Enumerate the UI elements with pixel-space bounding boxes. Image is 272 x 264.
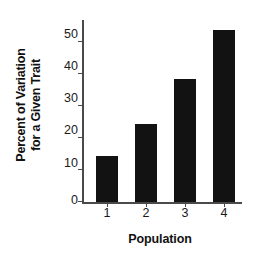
y-axis-tick-20 [78,137,82,138]
plot-area [82,20,242,202]
x-tick-label-1: 1 [92,206,122,220]
y-axis-title-line-2: for a Given Trait [29,48,44,161]
y-axis-tick-0 [78,201,82,202]
bar-population-2 [135,124,157,202]
bar-chart-figure: Percent of Variation for a Given Trait 0… [0,0,272,264]
y-axis-title-line-1: Percent of Variation [14,48,29,161]
x-axis-line [82,202,242,204]
y-tick-label-50: 50 [54,28,78,40]
x-axis-title: Population [60,232,260,246]
bar-population-3 [174,79,196,202]
y-tick-label-40: 40 [54,60,78,72]
y-axis-tick-labels: 0 10 20 30 40 50 [54,0,78,264]
y-tick-label-30: 30 [54,92,78,104]
y-tick-label-20: 20 [54,124,78,136]
x-axis-tick-labels: 1 2 3 4 [82,206,242,224]
y-axis-tick-50 [78,41,82,42]
y-tick-label-0: 0 [54,194,78,206]
x-tick-label-4: 4 [209,206,239,220]
y-tick-label-10: 10 [54,157,78,169]
y-axis-line [82,20,84,202]
bar-population-4 [213,30,235,202]
y-axis-tick-30 [78,105,82,106]
x-tick-label-3: 3 [170,206,200,220]
x-tick-label-2: 2 [131,206,161,220]
bar-population-1 [96,156,118,202]
y-axis-tick-40 [78,73,82,74]
y-axis-title: Percent of Variation for a Given Trait [0,0,58,210]
y-axis-tick-10 [78,169,82,170]
